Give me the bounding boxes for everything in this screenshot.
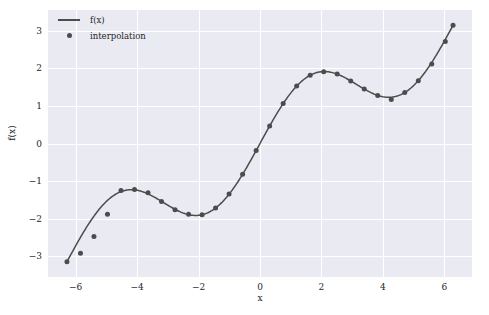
y-tick-label: −1	[10, 176, 42, 186]
data-point-marker	[186, 212, 191, 217]
legend-label-fx: f(x)	[90, 15, 105, 25]
data-point-marker	[416, 78, 421, 83]
legend-label-interpolation: interpolation	[90, 31, 146, 41]
data-point-marker	[308, 73, 313, 78]
y-tick-label: 3	[10, 26, 42, 36]
data-point-marker	[375, 93, 380, 98]
data-point-marker	[443, 39, 448, 44]
x-tick-label: −2	[192, 282, 205, 292]
dot-swatch-icon	[56, 33, 82, 38]
data-point-marker	[335, 72, 340, 77]
series-line-fx	[67, 25, 453, 261]
x-tick-label: 2	[319, 282, 325, 292]
x-tick-label: −6	[69, 282, 82, 292]
data-point-marker	[402, 90, 407, 95]
data-point-marker	[451, 23, 456, 28]
y-tick-label: 2	[10, 63, 42, 73]
x-axis-title: x	[48, 293, 472, 303]
data-point-marker	[362, 87, 367, 92]
data-point-marker	[146, 190, 151, 195]
chart-legend: f(x) interpolation	[56, 14, 146, 41]
data-point-marker	[429, 61, 434, 66]
data-point-marker	[173, 207, 178, 212]
data-point-marker	[132, 187, 137, 192]
data-point-marker	[119, 188, 124, 193]
data-point-marker	[200, 212, 205, 217]
data-point-marker	[294, 84, 299, 89]
y-axis-title: f(x)	[7, 103, 17, 163]
data-point-marker	[321, 69, 326, 74]
x-tick-label: 4	[380, 282, 386, 292]
legend-entry-fx: f(x)	[56, 14, 146, 25]
x-tick-label: −4	[130, 282, 143, 292]
y-tick-label: −2	[10, 214, 42, 224]
data-point-marker	[389, 97, 394, 102]
data-point-marker	[78, 251, 83, 256]
legend-entry-interpolation: interpolation	[56, 30, 146, 41]
x-tick-label: 6	[441, 282, 447, 292]
line-swatch-icon	[56, 19, 82, 21]
data-point-marker	[240, 172, 245, 177]
plot-area	[48, 10, 472, 277]
data-point-marker	[254, 148, 259, 153]
data-point-marker	[267, 123, 272, 128]
y-tick-label: −3	[10, 251, 42, 261]
data-point-marker	[91, 234, 96, 239]
chart-figure: −3−2−10123 f(x) f(x) interpolation −6−4−…	[0, 0, 489, 315]
data-point-marker	[213, 205, 218, 210]
data-point-marker	[227, 192, 232, 197]
data-point-marker	[281, 101, 286, 106]
data-point-marker	[105, 212, 110, 217]
chart-canvas	[48, 10, 472, 277]
data-point-marker	[348, 79, 353, 84]
data-point-marker	[64, 259, 69, 264]
x-tick-label: 0	[257, 282, 263, 292]
data-point-marker	[159, 199, 164, 204]
